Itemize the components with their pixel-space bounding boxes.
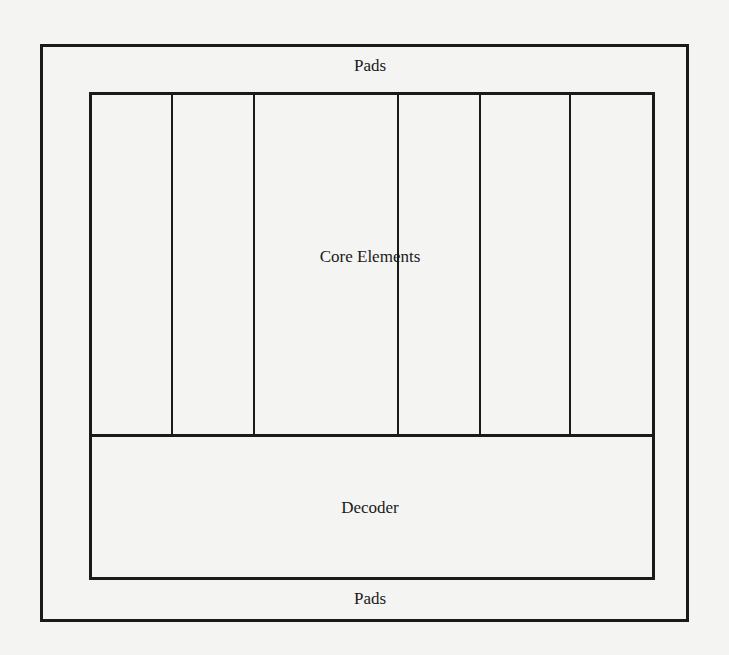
core-column-divider bbox=[171, 94, 173, 435]
pads-top-label: Pads bbox=[354, 56, 386, 76]
core-column-divider bbox=[569, 94, 571, 435]
core-elements-label: Core Elements bbox=[320, 247, 421, 267]
decoder-label: Decoder bbox=[341, 498, 399, 518]
core-column-divider bbox=[253, 94, 255, 435]
core-column-divider bbox=[479, 94, 481, 435]
core-decoder-divider bbox=[89, 434, 655, 437]
pads-bottom-label: Pads bbox=[354, 589, 386, 609]
